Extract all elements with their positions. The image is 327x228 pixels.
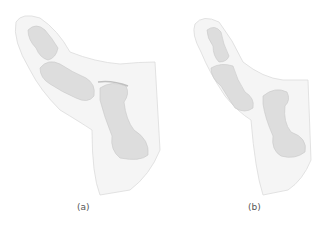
thumb-illustration-a (0, 0, 163, 228)
panel-a-illustration: (a) (0, 0, 163, 228)
panel-b-illustration: (b) (163, 0, 327, 228)
thumb-illustration-b (163, 0, 327, 228)
panel-label-a: (a) (77, 202, 90, 212)
panel-label-b: (b) (248, 202, 261, 212)
